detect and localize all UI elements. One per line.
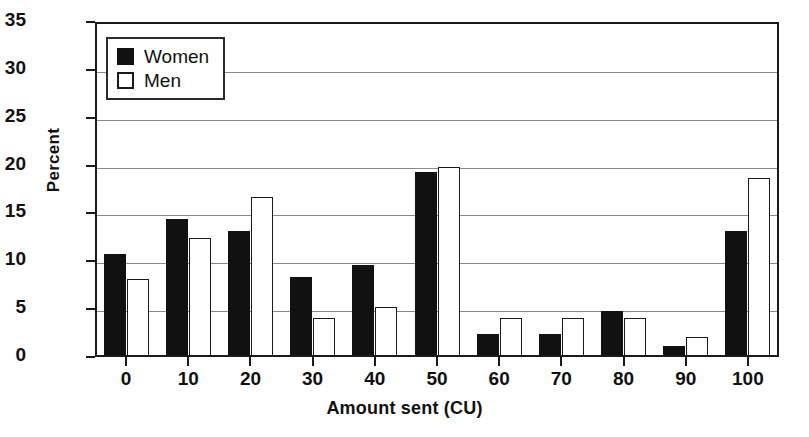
bar-women-30	[290, 277, 312, 357]
x-tick-label: 80	[594, 368, 654, 390]
y-tick-label: 10	[0, 248, 26, 270]
x-tick-mark	[685, 357, 687, 366]
bar-women-60	[477, 334, 499, 357]
x-tick-label: 90	[656, 368, 716, 390]
x-tick-mark	[560, 357, 562, 366]
bar-men-40	[375, 307, 397, 357]
bar-men-10	[189, 238, 211, 357]
legend-label-men: Men	[144, 71, 181, 90]
bar-men-60	[500, 318, 522, 357]
x-tick-label: 0	[96, 368, 156, 390]
x-tick-label: 30	[283, 368, 343, 390]
x-tick-mark	[498, 357, 500, 366]
legend-item-women: Women	[117, 44, 209, 68]
bar-women-0	[104, 254, 126, 357]
bar-women-90	[663, 346, 685, 357]
legend: Women Men	[106, 37, 225, 100]
y-tick-mark	[86, 260, 95, 262]
y-axis-title: Percent	[44, 100, 64, 220]
legend-swatch-men-icon	[117, 72, 134, 89]
x-tick-mark	[436, 357, 438, 366]
y-tick-label: 25	[0, 105, 26, 127]
bar-women-40	[352, 265, 374, 357]
x-tick-mark	[747, 357, 749, 366]
x-tick-label: 70	[531, 368, 591, 390]
legend-label-women: Women	[144, 47, 209, 66]
y-tick-mark	[86, 117, 95, 119]
x-tick-label: 40	[345, 368, 405, 390]
x-tick-mark	[623, 357, 625, 366]
y-tick-mark	[86, 69, 95, 71]
x-tick-mark	[312, 357, 314, 366]
bar-women-10	[166, 219, 188, 357]
y-tick-label: 30	[0, 57, 26, 79]
y-tick-label: 0	[0, 344, 26, 366]
bar-women-100	[725, 231, 747, 357]
y-tick-label: 20	[0, 153, 26, 175]
y-tick-label: 15	[0, 200, 26, 222]
bar-chart: Percent Amount sent (CU) 05101520253035 …	[0, 0, 809, 437]
y-tick-label: 5	[0, 296, 26, 318]
x-axis-title: Amount sent (CU)	[0, 398, 809, 419]
y-tick-mark	[86, 356, 95, 358]
x-tick-mark	[374, 357, 376, 366]
x-tick-label: 50	[407, 368, 467, 390]
bar-women-70	[539, 334, 561, 357]
y-tick-mark	[86, 165, 95, 167]
x-tick-label: 20	[220, 368, 280, 390]
bar-men-30	[313, 318, 335, 357]
y-tick-mark	[86, 212, 95, 214]
bar-women-20	[228, 231, 250, 357]
x-tick-mark	[187, 357, 189, 366]
x-tick-mark	[125, 357, 127, 366]
bar-men-70	[562, 318, 584, 357]
legend-swatch-women-icon	[117, 48, 134, 65]
y-tick-mark	[86, 308, 95, 310]
bar-men-20	[251, 197, 273, 357]
x-tick-mark	[249, 357, 251, 366]
bar-men-80	[624, 318, 646, 357]
bar-women-80	[601, 311, 623, 357]
y-tick-label: 35	[0, 9, 26, 31]
bar-men-90	[686, 337, 708, 357]
x-tick-label: 60	[469, 368, 529, 390]
legend-item-men: Men	[117, 68, 209, 92]
y-tick-mark	[86, 21, 95, 23]
gridline	[97, 120, 777, 121]
bar-men-100	[748, 178, 770, 357]
x-tick-label: 100	[718, 368, 778, 390]
x-tick-label: 10	[158, 368, 218, 390]
bar-men-0	[127, 279, 149, 357]
bar-men-50	[438, 167, 460, 357]
bar-women-50	[415, 172, 437, 357]
